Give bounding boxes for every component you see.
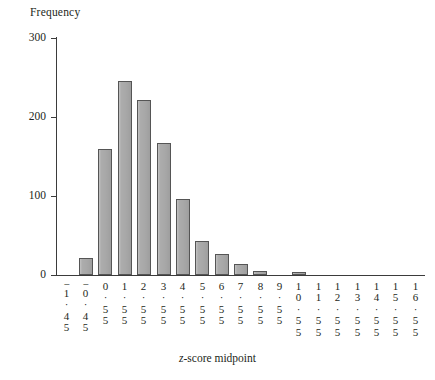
x-axis-label-char: 5 [231,315,250,326]
x-axis-label-stack: 7·55 [231,281,250,327]
x-axis-label-stack: 4·55 [173,281,192,327]
histogram-bar [176,199,190,275]
x-axis-label-stack: 12·55 [328,281,347,338]
x-axis-label-char: 5 [328,315,347,326]
histogram-bar [292,272,306,275]
x-axis-label-char: 5 [348,327,367,338]
histogram-bar [215,254,229,275]
y-tick-0 [51,275,57,276]
x-axis-label-char: 5 [309,327,328,338]
histogram-bar [195,241,209,275]
x-axis-label-stack: 14·55 [367,281,386,338]
x-axis-label-char: 5 [96,315,115,326]
x-axis-label-stack: −1·45 [57,281,76,334]
x-axis-label-char: 5 [193,315,212,326]
x-axis-label-char: 5 [386,315,405,326]
x-axis-label-stack: 2·55 [134,281,153,327]
x-axis-label-stack: 15·55 [386,281,405,338]
x-axis-title-rest: -score midpoint [183,352,256,364]
y-tick-label-0: 0 [6,268,46,280]
x-axis-label-stack: 16·55 [406,281,425,338]
histogram-chart: Frequency 0100200300 −1·45−0·450·551·552… [0,0,435,380]
x-axis-labels: −1·45−0·450·551·552·553·554·555·556·557·… [57,281,425,351]
x-axis-label-char: 5 [251,315,270,326]
x-axis-label-stack: 5·55 [193,281,212,327]
histogram-bar [79,258,93,275]
histogram-bar [137,100,151,275]
x-axis-label-char: 5 [328,327,347,338]
x-axis-label-char: 5 [406,327,425,338]
x-axis-label-stack: 6·55 [212,281,231,327]
x-axis-label-char: 5 [309,315,328,326]
y-tick-label-300: 300 [6,31,46,43]
x-axis-label-char: 5 [270,315,289,326]
x-axis-label-char: 5 [134,315,153,326]
x-axis-label-char: 5 [115,315,134,326]
x-axis-label-stack: 13·55 [348,281,367,338]
histogram-bar [118,81,132,275]
x-axis-label-char: 5 [173,315,192,326]
x-axis-line [56,275,425,276]
x-axis-label-char: 5 [367,315,386,326]
x-axis-label-char: 5 [406,315,425,326]
x-axis-label-char: 5 [386,327,405,338]
histogram-bar [98,149,112,275]
y-tick-label-200: 200 [6,110,46,122]
x-axis-label-stack: 8·55 [251,281,270,327]
x-axis-label-char: 5 [154,315,173,326]
histogram-bar [253,271,267,275]
x-axis-label-stack: 3·55 [154,281,173,327]
x-axis-label-char: 5 [348,315,367,326]
x-axis-title: z-score midpoint [0,352,435,364]
x-axis-label-stack: −0·45 [76,281,95,334]
x-axis-label-stack: 0·55 [96,281,115,327]
x-axis-label-char: 5 [289,327,308,338]
histogram-bar [157,143,171,275]
bars-layer [57,38,425,275]
x-axis-label-char: 5 [367,327,386,338]
histogram-bar [234,264,248,275]
x-axis-label-char: 5 [289,315,308,326]
y-axis-title: Frequency [30,6,80,18]
x-axis-label-char: 5 [212,315,231,326]
x-axis-label-char: 5 [76,322,95,333]
x-axis-label-stack: 9·55 [270,281,289,327]
x-axis-label-char: 5 [57,322,76,333]
x-axis-label-stack: 1·55 [115,281,134,327]
y-tick-label-100: 100 [6,189,46,201]
x-axis-label-stack: 11·55 [309,281,328,338]
x-axis-label-stack: 10·55 [289,281,308,338]
